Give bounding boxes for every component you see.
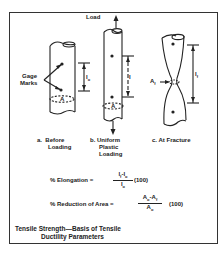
area-b-label: A [111, 103, 115, 110]
panel-c-caption: c. At Fracture [152, 137, 190, 144]
reduction-equation: % Reduction of Area = [50, 201, 114, 208]
elongation-fraction: lf-lo lo [113, 171, 133, 190]
gage-marks-label-2: Marks [20, 80, 37, 87]
lf-label: lf [195, 71, 198, 80]
elongation-equation: % Elongation = [50, 177, 93, 184]
load-label: Load [86, 14, 100, 21]
gage-marks-label-1: Gage [22, 73, 37, 80]
area-label: A [60, 96, 64, 103]
specimen-before-loading [44, 42, 90, 114]
figure-caption: Tensile Strength—Basis of Tensile Ductil… [15, 225, 121, 241]
tensile-specimen-diagram [0, 0, 224, 253]
panel-b-caption: b. Uniform Plastic Loading [90, 137, 122, 158]
reduction-factor: (100) [169, 201, 183, 208]
reduction-fraction: Ao-Af Ao [138, 194, 162, 213]
elongation-factor: (100) [134, 177, 148, 184]
lo-label: lo [86, 74, 90, 83]
area-f-label: Af [150, 78, 156, 87]
panel-a-caption: a. Before Loading [37, 137, 71, 151]
l-label: l [129, 74, 131, 81]
